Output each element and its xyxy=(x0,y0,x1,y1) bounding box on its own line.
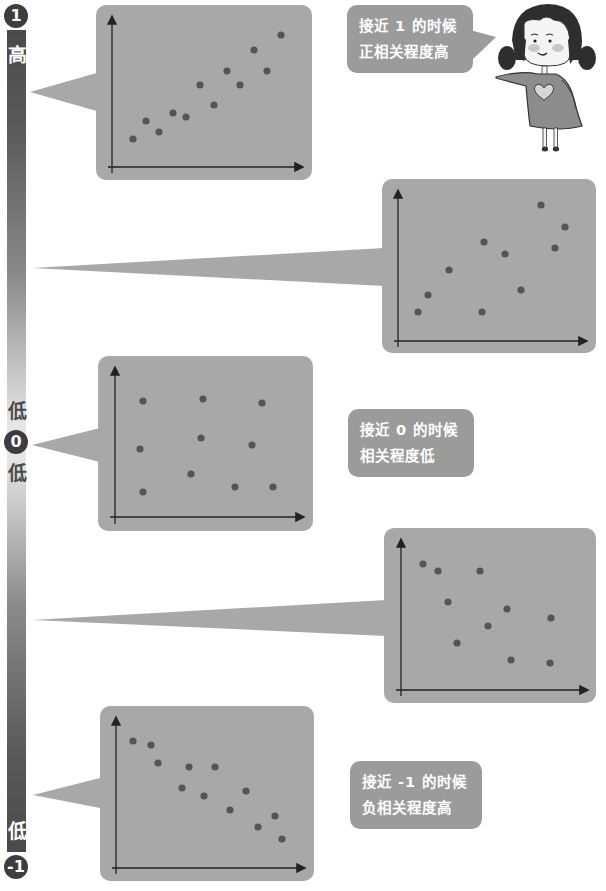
dress xyxy=(496,73,582,129)
pointer-panel-2 xyxy=(32,248,384,286)
bubble-near-1-line1: 接近 1 的时候 xyxy=(359,13,461,39)
bubble-near-0-line2: 相关程度低 xyxy=(360,443,462,469)
face xyxy=(524,17,570,66)
scatter-plot-moderate-positive xyxy=(382,179,596,353)
scatter-panel-moderate-negative xyxy=(384,528,596,703)
pointer-panel-5 xyxy=(33,778,100,808)
scatter-panel-moderate-positive xyxy=(382,179,596,353)
pointer-panel-4 xyxy=(32,600,386,636)
pointer-panel-3 xyxy=(32,428,100,462)
scale-label-high: 高 xyxy=(4,44,30,66)
scatter-plot-no-correlation xyxy=(98,356,313,531)
scale-value-bottom: -1 xyxy=(4,855,28,879)
scale-label-low-lower: 低 xyxy=(4,462,30,484)
scatter-panel-no-correlation xyxy=(98,356,313,531)
scale-value-mid: 0 xyxy=(4,430,28,454)
bubble-near-minus-1-line2: 负相关程度高 xyxy=(362,795,470,821)
pointer-panel-1 xyxy=(30,72,100,112)
bubble-near-0: 接近 0 的时候 相关程度低 xyxy=(348,409,474,477)
scale-label-low-bottom: 低 xyxy=(4,820,30,842)
scatter-panel-strong-positive xyxy=(96,5,312,180)
bubble-near-1-line2: 正相关程度高 xyxy=(359,39,461,65)
bubble-near-minus-1: 接近 -1 的时候 负相关程度高 xyxy=(350,761,482,829)
left-pigtail xyxy=(498,46,516,70)
scale-label-low-upper: 低 xyxy=(4,400,30,422)
scale-value-top: 1 xyxy=(4,4,28,28)
scatter-plot-moderate-negative xyxy=(384,528,596,703)
bubble-near-1: 接近 1 的时候 正相关程度高 xyxy=(347,5,473,73)
scatter-plot-strong-negative xyxy=(100,706,314,881)
bubble-near-minus-1-line1: 接近 -1 的时候 xyxy=(362,769,470,795)
scatter-panel-strong-negative xyxy=(100,706,314,881)
girl-illustration xyxy=(490,0,606,160)
bubble-near-0-line1: 接近 0 的时候 xyxy=(360,417,462,443)
scatter-plot-strong-positive xyxy=(96,5,312,180)
